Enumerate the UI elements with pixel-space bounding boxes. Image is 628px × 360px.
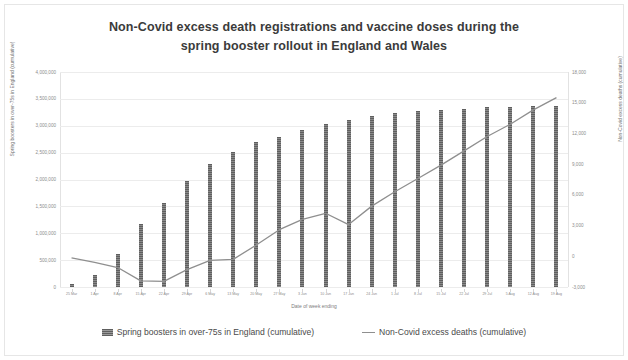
right-tick-label: 18,000: [572, 70, 586, 75]
x-tick-label: 5 Aug: [506, 292, 515, 296]
chart-figure: Non-Covid excess death registrations and…: [0, 0, 628, 360]
x-tick-label: 22 Apr: [159, 292, 169, 296]
x-tick-label: 15 Apr: [136, 292, 146, 296]
x-tick-label: 25 Mar: [66, 292, 77, 296]
right-axis-tick-labels: -3,00003,0006,0009,00012,00015,00018,000: [572, 72, 612, 287]
x-tick-label: 17 Jun: [343, 292, 354, 296]
x-tick-label: 15 Jul: [436, 292, 446, 296]
x-tick-label: 10 Jun: [320, 292, 331, 296]
x-tick-label: 8 Jul: [414, 292, 422, 296]
plot-area: [60, 72, 568, 287]
right-axis-line: [568, 72, 569, 287]
legend-item-boosters: Spring boosters in over-75s in England (…: [102, 327, 314, 337]
legend-label-excess-deaths: Non-Covid excess deaths (cumulative): [379, 327, 526, 337]
chart-title: Non-Covid excess death registrations and…: [60, 18, 568, 56]
chart-title-line-1: Non-Covid excess death registrations and…: [60, 18, 568, 37]
legend-item-excess-deaths: Non-Covid excess deaths (cumulative): [362, 327, 526, 337]
x-tick-label: 27 May: [273, 292, 285, 296]
line-swatch-icon: [362, 332, 375, 333]
chart-title-line-2: spring booster rollout in England and Wa…: [60, 37, 568, 56]
x-tick-label: 13 May: [227, 292, 239, 296]
x-axis-title: Date of week ending: [60, 303, 568, 309]
right-tick-label: 9,000: [572, 162, 584, 167]
x-tick-label: 22 Jul: [459, 292, 469, 296]
x-tick-label: 29 Jul: [482, 292, 492, 296]
x-tick-label: 29 Apr: [182, 292, 192, 296]
left-tick-label: 500,000: [4, 258, 56, 263]
right-tick-label: 12,000: [572, 131, 586, 136]
right-tick-label: 6,000: [572, 192, 584, 197]
gridline: [60, 287, 568, 288]
legend-label-boosters: Spring boosters in over-75s in England (…: [117, 327, 314, 337]
left-axis-title: Spring boosters in over-75s in England (…: [9, 0, 15, 219]
x-tick-label: 6 May: [205, 292, 215, 296]
bar-swatch-icon: [102, 329, 113, 336]
chart-legend: Spring boosters in over-75s in England (…: [60, 327, 568, 337]
right-tick-label: 3,000: [572, 223, 584, 228]
x-tick-label: 1 Apr: [90, 292, 98, 296]
x-tick-label: 24 Jun: [366, 292, 377, 296]
right-tick-label: 0: [572, 254, 575, 259]
right-tick-label: -3,000: [572, 285, 585, 290]
x-tick-label: 8 Apr: [114, 292, 122, 296]
left-tick-label: 1,000,000: [4, 231, 56, 236]
x-tick-label: 19 Aug: [551, 292, 562, 296]
x-axis-tick-labels: 25 Mar1 Apr8 Apr15 Apr22 Apr29 Apr6 May1…: [60, 289, 568, 303]
line-series: [60, 72, 568, 287]
left-tick-label: 0: [4, 285, 56, 290]
right-axis-title: Non-Covid excess deaths (cumulative): [617, 0, 623, 219]
x-tick-label: 3 Jun: [298, 292, 307, 296]
x-tick-label: 20 May: [250, 292, 262, 296]
x-tick-label: 12 Aug: [528, 292, 539, 296]
x-tick-label: 1 Jul: [391, 292, 399, 296]
right-tick-label: 15,000: [572, 100, 586, 105]
excess-deaths-line: [72, 98, 557, 282]
